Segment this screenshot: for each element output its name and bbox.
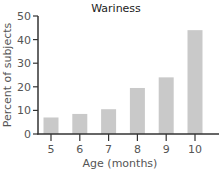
x-tick-label: 7 <box>105 143 112 156</box>
bar-8 <box>130 88 145 134</box>
y-tick-label: 10 <box>17 104 31 117</box>
bar-7 <box>101 109 116 134</box>
y-tick-label: 0 <box>24 128 31 141</box>
bar-5 <box>44 117 59 134</box>
y-tick-label: 40 <box>17 34 31 47</box>
x-axis-label: Age (months) <box>83 157 158 170</box>
y-tick-label: 30 <box>17 57 31 70</box>
bar-chart: Wariness 01020304050 5678910 Age (months… <box>0 0 221 178</box>
bars <box>44 30 203 134</box>
y-axis-label: Percent of subjects <box>1 22 14 127</box>
y-axis: 01020304050 <box>17 10 38 141</box>
bar-10 <box>188 30 203 134</box>
x-tick-label: 10 <box>188 143 202 156</box>
y-tick-label: 20 <box>17 81 31 94</box>
x-axis: 5678910 <box>37 134 219 156</box>
x-tick-label: 8 <box>134 143 141 156</box>
chart-title: Wariness <box>91 2 141 15</box>
x-tick-label: 6 <box>76 143 83 156</box>
y-tick-label: 50 <box>17 10 31 23</box>
bar-6 <box>72 114 87 134</box>
x-tick-label: 5 <box>48 143 55 156</box>
x-tick-label: 9 <box>163 143 170 156</box>
bar-9 <box>159 77 174 134</box>
